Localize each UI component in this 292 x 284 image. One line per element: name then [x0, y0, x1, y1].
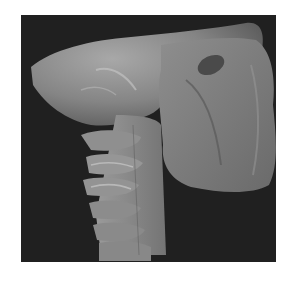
mandible	[159, 38, 276, 192]
skull-spine-render	[21, 15, 276, 262]
medical-render-frame	[21, 15, 276, 262]
